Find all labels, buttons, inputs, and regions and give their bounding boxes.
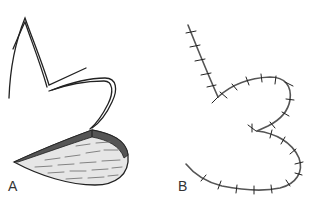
sutured-closure-drawing (160, 0, 316, 205)
flap (14, 130, 128, 185)
incision-outline (9, 18, 116, 129)
panel-label-a: A (8, 179, 17, 193)
panel-a: A (0, 0, 160, 205)
closure-line (186, 25, 300, 190)
panel-b: B (160, 0, 316, 205)
panel-label-b: B (178, 179, 187, 193)
flap-incision-drawing (0, 0, 160, 205)
